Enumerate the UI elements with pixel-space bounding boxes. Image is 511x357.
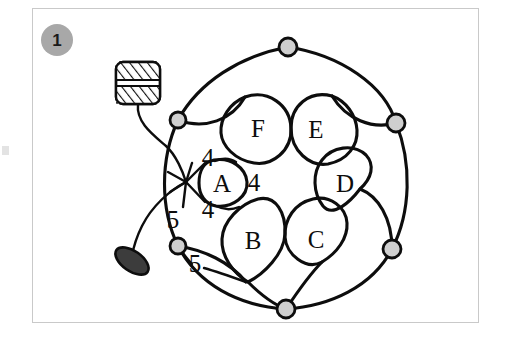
outer-node-top[interactable] <box>279 38 297 56</box>
lobe-D-label: D <box>336 170 354 197</box>
outer-node-bottom[interactable] <box>277 300 295 318</box>
edge-weight-right: 4 <box>248 169 261 196</box>
lobe-E[interactable]: E <box>291 95 357 165</box>
outer-node-upper-left[interactable] <box>170 112 186 128</box>
lobe-group: F E D C B <box>199 95 371 282</box>
hatched-block-upper-fill <box>116 62 160 79</box>
lobe-A-label: A <box>213 170 231 197</box>
edge-weight-top: 4 <box>202 144 215 171</box>
outer-node-lower-right[interactable] <box>383 240 401 258</box>
outer-node-lower-left[interactable] <box>170 238 186 254</box>
junction-stroke-5 <box>183 182 186 207</box>
hatched-block-lower-fill <box>116 87 160 104</box>
dark-ellipse[interactable] <box>111 242 154 280</box>
edge-weight-left-lower: 5 <box>189 250 202 277</box>
outer-arc-top-left <box>178 47 288 120</box>
lobe-E-label: E <box>308 116 323 143</box>
lobe-B-label: B <box>245 227 262 254</box>
lobe-F-label: F <box>251 115 265 142</box>
outer-arc-right <box>392 123 407 249</box>
figure-root: F E D C B <box>0 0 511 357</box>
outer-node-upper-right[interactable] <box>387 114 405 132</box>
diagram-canvas: F E D C B <box>0 0 511 357</box>
outer-arc-bottom-right <box>286 249 392 309</box>
outer-arc-top-right <box>288 47 396 123</box>
lobe-C-label: C <box>308 226 325 253</box>
lobe-B[interactable]: B <box>222 198 285 282</box>
hatched-block[interactable] <box>116 62 160 104</box>
lobe-E-outline <box>291 95 357 165</box>
dark-ellipse-shape <box>111 242 154 280</box>
figure-badge: 1 <box>41 24 73 56</box>
lobe-F[interactable]: F <box>221 95 291 163</box>
figure-badge-label: 1 <box>52 31 61 50</box>
edge-weight-bottom: 4 <box>202 196 215 223</box>
edge-weight-left-upper: 5 <box>167 206 180 233</box>
